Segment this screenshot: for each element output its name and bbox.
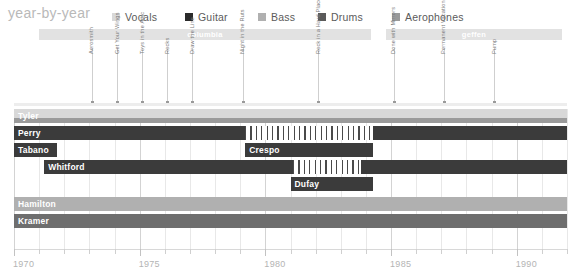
member-name-label: Whitford	[44, 160, 89, 174]
axis-tick-label: 1975	[139, 259, 160, 269]
timeline-segment-aerophones[interactable]	[14, 118, 567, 123]
chart-header: year-by-year VocalsGuitarBassDrumsAeroph…	[0, 0, 581, 26]
album-pin-line	[142, 48, 143, 104]
axis-tick	[517, 249, 518, 256]
album-pin-line	[444, 48, 445, 104]
album-pin-line	[117, 48, 118, 104]
album-pin-line	[192, 48, 193, 104]
axis-tick	[190, 249, 191, 254]
member-name-label: Tabano	[14, 143, 53, 157]
legend-item-drums[interactable]: Drums	[318, 7, 363, 21]
axis-tick	[240, 249, 241, 254]
member-name-label: Kramer	[14, 214, 53, 228]
axis-tick	[39, 249, 40, 254]
album-title-label[interactable]: Done with Mirrors	[390, 7, 396, 54]
timeline-row-tyler[interactable]: Tyler	[14, 109, 567, 123]
axis-tick	[316, 249, 317, 254]
member-name-label: Tyler	[14, 109, 43, 123]
axis-tick	[14, 249, 15, 256]
axis-tick	[441, 249, 442, 254]
axis-tick	[215, 249, 216, 254]
legend-swatch-icon	[258, 13, 266, 21]
timeline-segment-guitar[interactable]	[14, 126, 245, 140]
axis-tick-label: 1990	[516, 259, 537, 269]
axis-tick	[115, 249, 116, 254]
album-title-label[interactable]: Rock in a Hard Place	[315, 0, 321, 54]
album-title-label[interactable]: Draw the Line	[189, 17, 195, 54]
plot-area: TylerPerryTabanoCrespoWhitfordDufayHamil…	[14, 109, 567, 249]
timeline-row-crespo[interactable]: Crespo	[14, 143, 567, 157]
legend-item-bass[interactable]: Bass	[258, 7, 295, 21]
axis-tick-label: 1980	[264, 259, 285, 269]
legend-item-label: Aerophones	[405, 11, 464, 23]
legend-item-label: Guitar	[198, 11, 228, 23]
timeline-row-hamilton[interactable]: Hamilton	[14, 197, 567, 211]
album-pin-line	[394, 48, 395, 104]
axis-tick	[492, 249, 493, 254]
album-title-label[interactable]: Pump	[491, 39, 497, 54]
axis-tick	[567, 249, 568, 254]
axis-tick	[391, 249, 392, 256]
timeline-segment-bass[interactable]	[14, 197, 567, 211]
album-title-label[interactable]: Aerosmith	[88, 27, 94, 54]
legend-item-label: Bass	[271, 11, 295, 23]
axis-tick	[64, 249, 65, 254]
album-pin-line	[92, 48, 93, 104]
timeline-segment-guitar-absent[interactable]	[293, 160, 361, 174]
axis-tick-label: 1970	[13, 259, 34, 269]
axis-tick	[265, 249, 266, 256]
page-title: year-by-year	[8, 5, 90, 21]
timeline-row-kramer[interactable]: Kramer	[14, 214, 567, 228]
axis-tick	[165, 249, 166, 254]
legend-item-aerophones[interactable]: Aerophones	[392, 7, 464, 21]
record-label-name: geffen	[386, 29, 562, 40]
timeline-segment-guitar[interactable]	[373, 126, 567, 140]
axis-tick	[416, 249, 417, 254]
legend-item-label: Drums	[331, 11, 363, 23]
album-title-label[interactable]: Toys in the Attic	[139, 12, 145, 54]
axis-tick	[341, 249, 342, 254]
member-name-label: Dufay	[291, 177, 324, 191]
axis-tick-label: 1985	[390, 259, 411, 269]
grid-line	[567, 109, 568, 249]
album-title-label[interactable]: Night in the Ruts	[239, 9, 245, 54]
album-pin-line	[243, 48, 244, 104]
axis-tick	[466, 249, 467, 254]
album-pin-line	[167, 48, 168, 104]
member-name-label: Perry	[14, 126, 45, 140]
timeline-segment-vocals[interactable]	[14, 109, 567, 118]
timeline-segment-drums[interactable]	[14, 214, 567, 228]
album-pin-line	[318, 48, 319, 104]
album-title-label[interactable]: Get Your Wings	[114, 12, 120, 54]
axis-tick	[542, 249, 543, 254]
timeline-row-whitford[interactable]: Whitford	[14, 160, 567, 174]
axis-tick	[140, 249, 141, 256]
member-name-label: Hamilton	[14, 197, 60, 211]
timeline-segment-guitar[interactable]	[361, 160, 567, 174]
axis-tick	[291, 249, 292, 254]
timeline-row-perry[interactable]: Perry	[14, 126, 567, 140]
timeline-row-dufay[interactable]: Dufay	[14, 177, 567, 191]
member-name-label: Crespo	[245, 143, 284, 157]
timeline-segment-guitar-absent[interactable]	[245, 126, 373, 140]
year-by-year-timeline-chart: year-by-year VocalsGuitarBassDrumsAeroph…	[0, 0, 581, 278]
album-baseline	[14, 103, 567, 106]
album-pin-line	[494, 48, 495, 104]
album-title-label[interactable]: Permanent Vacation	[440, 0, 446, 54]
album-title-label[interactable]: Rocks	[164, 37, 170, 54]
axis-tick	[366, 249, 367, 254]
axis-tick	[89, 249, 90, 254]
